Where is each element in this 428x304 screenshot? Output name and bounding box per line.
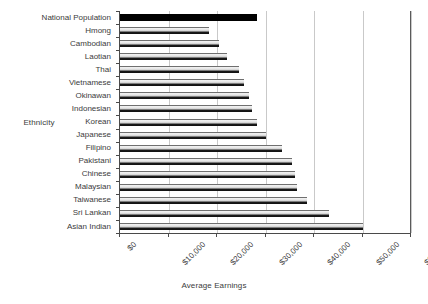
x-tick [216, 233, 217, 237]
x-tick [410, 233, 411, 237]
x-tick [119, 233, 120, 237]
x-tick [265, 233, 266, 237]
x-axis-title: Average Earnings [0, 281, 428, 290]
x-tick [362, 233, 363, 237]
x-tick [168, 233, 169, 237]
x-tick [313, 233, 314, 237]
bar-chart: Ethnicity National PopulationHmongCambod… [0, 0, 428, 304]
x-axis-ticks [0, 0, 428, 304]
